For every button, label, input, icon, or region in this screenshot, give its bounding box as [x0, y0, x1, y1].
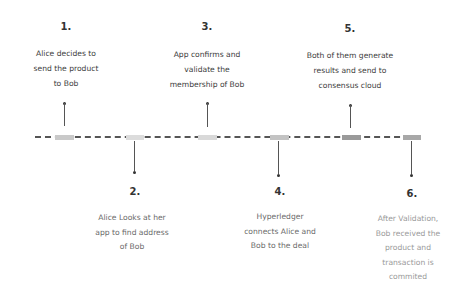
arrow-head-icon: [133, 171, 136, 174]
step-number: 5.: [345, 23, 356, 34]
step-number: 4.: [275, 186, 286, 197]
connector-line: [64, 103, 65, 126]
connector-line: [207, 103, 208, 127]
connector-line: [411, 141, 412, 174]
step-number: 3.: [202, 21, 213, 32]
connector-line: [350, 105, 351, 128]
timeline-segment-1: [55, 135, 74, 140]
connector-line: [278, 141, 279, 174]
step-number: 2.: [130, 186, 141, 197]
step-description: Alice decides to send the product to Bob: [34, 46, 99, 91]
timeline-segment-3: [198, 135, 217, 140]
arrow-head-icon: [410, 174, 413, 177]
step-description: After Validation, Bob received the produ…: [376, 212, 441, 285]
timeline-segment-2: [126, 135, 144, 140]
arrow-head-icon: [277, 174, 280, 177]
step-description: Alice Looks at her app to find address o…: [95, 211, 168, 255]
step-number: 6.: [407, 188, 418, 199]
step-description: Both of them generate results and send t…: [307, 48, 393, 93]
step-description: Hyperledger connects Alice and Bob to th…: [244, 210, 316, 254]
timeline-segment-5: [342, 135, 361, 140]
timeline-segment-6: [403, 135, 421, 140]
step-number: 1.: [61, 21, 72, 32]
timeline-dashed-line: [35, 136, 420, 138]
timeline-segment-4: [270, 135, 289, 140]
step-description: App confirms and validate the membership…: [170, 47, 245, 92]
connector-line: [134, 141, 135, 171]
